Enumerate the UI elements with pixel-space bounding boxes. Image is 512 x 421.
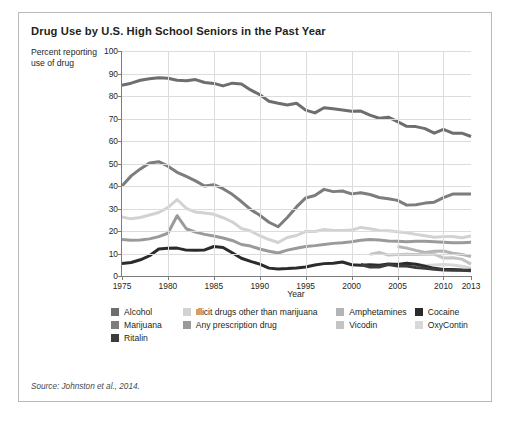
y-tick-mark <box>118 231 122 232</box>
y-tick-label: 100 <box>104 46 118 56</box>
legend-item-any-prescription-drug[interactable]: Any prescription drug <box>183 320 337 330</box>
legend-row: Ritalin <box>111 331 483 344</box>
legend-swatch-icon <box>415 321 423 329</box>
legend-label: Any prescription drug <box>196 320 277 330</box>
gridline-horizontal <box>122 51 471 52</box>
gridline-vertical <box>260 51 261 276</box>
plot-area: 0102030405060708090100197519801985199019… <box>121 51 471 277</box>
gridline-horizontal <box>122 141 471 142</box>
gridline-vertical <box>352 51 353 276</box>
y-tick-mark <box>118 164 122 165</box>
y-tick-label: 70 <box>109 114 118 124</box>
y-tick-label: 0 <box>113 271 118 281</box>
legend-swatch-icon <box>111 321 119 329</box>
gridline-horizontal <box>122 164 471 165</box>
legend-item-vicodin[interactable]: Vicodin <box>336 320 415 330</box>
gridline-horizontal <box>122 186 471 187</box>
y-tick-mark <box>118 254 122 255</box>
x-tick-mark <box>168 276 169 280</box>
legend-label: Amphetamines <box>349 307 406 317</box>
y-tick-mark <box>118 209 122 210</box>
x-tick-mark <box>122 276 123 280</box>
y-tick-label: 40 <box>109 181 118 191</box>
gridline-horizontal <box>122 96 471 97</box>
legend-label: Vicodin <box>349 320 377 330</box>
gridline-horizontal <box>122 209 471 210</box>
y-tick-mark <box>118 51 122 52</box>
y-tick-label: 50 <box>109 159 118 169</box>
x-tick-mark <box>260 276 261 280</box>
y-tick-label: 10 <box>109 249 118 259</box>
plot-wrapper: 0102030405060708090100197519801985199019… <box>91 47 471 299</box>
gridline-horizontal <box>122 231 471 232</box>
y-axis-caption: Percent reporting use of drug <box>31 47 97 69</box>
gridline-vertical <box>398 51 399 276</box>
series-line-alcohol <box>122 78 471 137</box>
y-tick-mark <box>118 96 122 97</box>
x-tick-mark <box>398 276 399 280</box>
legend-item-illicit-drugs-other-than-marijuana[interactable]: Illicit drugs other than marijuana <box>183 307 337 317</box>
legend-item-ritalin[interactable]: Ritalin <box>111 333 195 343</box>
legend-label: Marijuana <box>124 320 162 330</box>
gridline-horizontal <box>122 74 471 75</box>
legend-item-alcohol[interactable]: Alcohol <box>111 307 183 317</box>
legend-swatch-icon <box>183 308 191 316</box>
y-tick-mark <box>118 141 122 142</box>
source-note: Source: Johnston et al., 2014. <box>31 382 140 391</box>
legend-item-marijuana[interactable]: Marijuana <box>111 320 183 330</box>
x-tick-mark <box>352 276 353 280</box>
legend-row: MarijuanaAny prescription drugVicodinOxy… <box>111 318 483 331</box>
x-tick-mark <box>471 276 472 280</box>
y-tick-label: 80 <box>109 91 118 101</box>
legend-item-cocaine[interactable]: Cocaine <box>415 307 483 317</box>
legend-swatch-icon <box>336 321 344 329</box>
legend-label: Cocaine <box>428 307 460 317</box>
legend-item-oxycontin[interactable]: OxyContin <box>415 320 483 330</box>
x-tick-mark <box>214 276 215 280</box>
legend-label: Ritalin <box>124 333 148 343</box>
gridline-vertical <box>168 51 169 276</box>
legend-swatch-icon <box>183 321 191 329</box>
y-tick-label: 60 <box>109 136 118 146</box>
legend-swatch-icon <box>111 308 119 316</box>
figure-frame: Drug Use by U.S. High School Seniors in … <box>18 12 492 402</box>
y-tick-mark <box>118 186 122 187</box>
legend-swatch-icon <box>415 308 423 316</box>
x-axis-title: Year <box>121 289 471 299</box>
legend-swatch-icon <box>111 334 119 342</box>
legend-label: Illicit drugs other than marijuana <box>196 307 318 317</box>
gridline-horizontal <box>122 119 471 120</box>
legend-item-amphetamines[interactable]: Amphetamines <box>336 307 415 317</box>
y-tick-label: 20 <box>109 226 118 236</box>
chart-legend: AlcoholIllicit drugs other than marijuan… <box>111 305 483 344</box>
y-tick-label: 90 <box>109 69 118 79</box>
legend-label: OxyContin <box>428 320 468 330</box>
y-tick-label: 30 <box>109 204 118 214</box>
gridline-horizontal <box>122 254 471 255</box>
gridline-vertical <box>443 51 444 276</box>
gridline-vertical <box>306 51 307 276</box>
y-tick-mark <box>118 74 122 75</box>
page-title: Drug Use by U.S. High School Seniors in … <box>31 25 326 37</box>
x-tick-mark <box>443 276 444 280</box>
series-line-marijuana <box>122 162 471 227</box>
legend-label: Alcohol <box>124 307 152 317</box>
gridline-vertical <box>214 51 215 276</box>
x-tick-mark <box>306 276 307 280</box>
legend-swatch-icon <box>336 308 344 316</box>
y-tick-mark <box>118 119 122 120</box>
legend-row: AlcoholIllicit drugs other than marijuan… <box>111 305 483 318</box>
